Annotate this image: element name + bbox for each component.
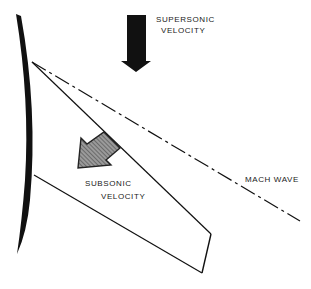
lower-line — [34, 175, 202, 273]
subsonic-velocity-label: VELOCITY — [101, 193, 145, 201]
mach-wave-label: MACH WAVE — [245, 176, 299, 184]
oblique-line — [32, 62, 211, 234]
diagram-graphic — [0, 0, 311, 289]
supersonic-arrow-icon — [121, 15, 151, 72]
subsonic-arrow-icon — [78, 132, 120, 168]
supersonic-velocity-label: VELOCITY — [161, 27, 205, 35]
supersonic-label: SUPERSONIC — [156, 16, 215, 24]
curved-surface — [16, 14, 33, 254]
mach-wave-diagram: SUPERSONIC VELOCITY SUBSONIC VELOCITY MA… — [0, 0, 311, 289]
subsonic-label: SUBSONIC — [85, 180, 132, 188]
trailing-edge-line — [202, 234, 211, 273]
